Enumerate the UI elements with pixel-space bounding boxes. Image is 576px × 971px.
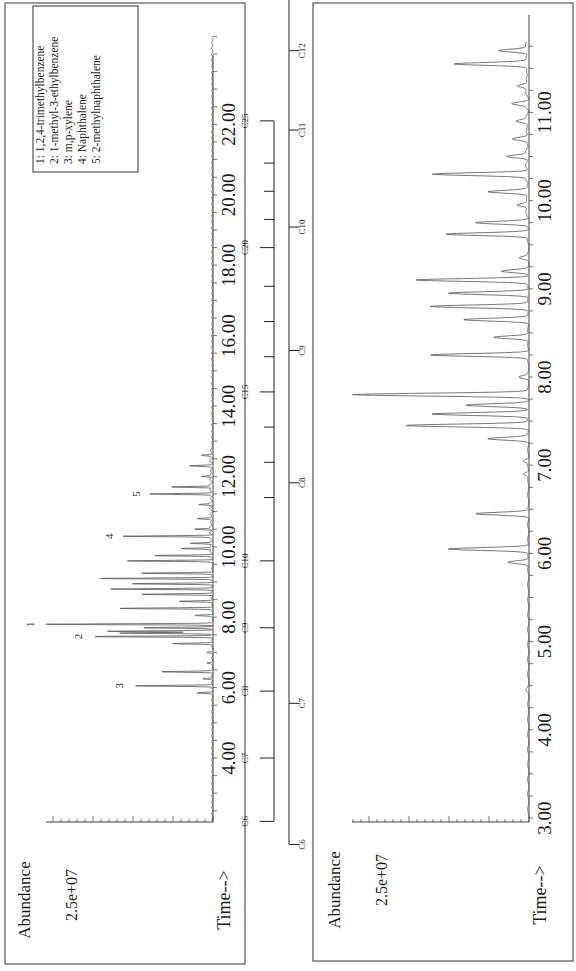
- time-tick-label: 9.00: [534, 272, 555, 305]
- time-tick-label: 20.00: [218, 173, 239, 216]
- legend-entry-4: 4: Naphthalene: [76, 94, 89, 164]
- expanded-trace: [353, 42, 529, 818]
- time-tick-label: 4.00: [534, 713, 555, 746]
- carbon-label-c7: C7: [297, 698, 307, 709]
- expanded-time-tick-labels: 3.004.005.006.007.008.009.0010.0011.00: [534, 91, 555, 834]
- time-tick-label: 7.00: [534, 449, 555, 482]
- time-tick-label: 5.00: [534, 625, 555, 658]
- carbon-label-c8: C8: [297, 477, 307, 488]
- time-tick-label: 10.00: [218, 525, 239, 568]
- carbon-label-c6: C6: [240, 816, 250, 827]
- carbon-label-c6: C6: [297, 839, 307, 850]
- legend: 1: 1,2,4-trimethylbenzene 2: 1-methyl-3-…: [33, 6, 138, 172]
- carbon-label-c8: C8: [240, 685, 250, 696]
- time-tick-label: 4.00: [218, 741, 239, 774]
- legend-entry-3: 3: m,p-xylene: [62, 100, 75, 164]
- expanded-abundance-ticks: [353, 816, 529, 822]
- full-run-time-ticks: [213, 36, 217, 810]
- time-tick-label: 6.00: [218, 671, 239, 704]
- legend-entry-5: 5: 2-methylnaphthalene: [90, 55, 103, 164]
- expanded-y-scale-label: 2.5e+07: [373, 854, 390, 906]
- carbon-label-c9: C9: [297, 345, 307, 356]
- carbon-label-c12: C12: [297, 43, 307, 58]
- expanded-carbon-scale: C6C7C8C9C10C11C12C13: [289, 0, 307, 850]
- full-run-time-tick-labels: 4.006.008.0010.0012.0014.0016.0018.0020.…: [218, 103, 239, 775]
- time-tick-label: 3.00: [534, 801, 555, 834]
- peak-label-3: 3: [113, 683, 125, 689]
- carbon-label-c11: C11: [297, 123, 307, 138]
- carbon-label-c10: C10: [297, 219, 307, 235]
- time-tick-label: 14.00: [218, 385, 239, 428]
- carbon-label-c9: C9: [240, 622, 250, 633]
- full-run-y-scale-label: 2.5e+07: [63, 869, 80, 921]
- expanded-time-label: Time-->: [530, 865, 550, 925]
- peak-label-1: 1: [24, 621, 36, 627]
- expanded-abundance-label: Abundance: [325, 851, 344, 928]
- carbon-label-c15: C15: [240, 384, 250, 400]
- carbon-label-c10: C10: [240, 553, 250, 569]
- time-tick-label: 11.00: [534, 91, 555, 133]
- peak-label-2: 2: [72, 634, 84, 640]
- full-run-panel: Abundance 2.5e+07 Time--> 4.006.008.0010…: [5, 3, 274, 964]
- peak-label-4: 4: [103, 533, 115, 539]
- full-run-abundance-ticks: [53, 816, 213, 822]
- time-tick-label: 8.00: [534, 360, 555, 393]
- time-tick-label: 12.00: [218, 455, 239, 498]
- time-tick-label: 6.00: [534, 537, 555, 570]
- time-tick-label: 8.00: [218, 601, 239, 634]
- carbon-label-c20: C20: [240, 240, 250, 256]
- full-run-abundance-label: Abundance: [15, 861, 34, 938]
- full-run-peak-labels: 32145: [24, 491, 141, 689]
- peak-label-5: 5: [130, 491, 142, 497]
- legend-entry-2: 2: 1-methyl-3-ethylbenzene: [48, 37, 61, 164]
- time-tick-label: 22.00: [218, 103, 239, 146]
- legend-entry-1: 1: 1,2,4-trimethylbenzene: [34, 46, 47, 164]
- time-tick-label: 10.00: [534, 179, 555, 222]
- time-tick-label: 18.00: [218, 244, 239, 287]
- chromatogram-figure: Abundance 2.5e+07 Time--> 4.006.008.0010…: [0, 0, 576, 971]
- full-run-time-label: Time-->: [214, 870, 234, 930]
- carbon-label-c25: C25: [240, 113, 250, 129]
- time-tick-label: 16.00: [218, 314, 239, 357]
- expanded-time-ticks: [529, 46, 533, 818]
- carbon-label-c7: C7: [240, 752, 250, 763]
- expanded-panel: Abundance 2.5e+07 Time--> 3.004.005.006.…: [289, 0, 573, 961]
